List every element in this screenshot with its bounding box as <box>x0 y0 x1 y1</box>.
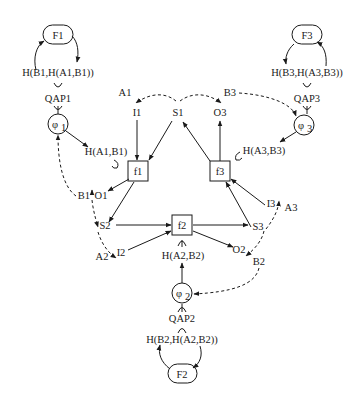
io-label-O2: O2 <box>233 244 246 255</box>
edge-S1-to-f1 <box>149 121 172 160</box>
edge-S3-to-O2-dashed <box>246 231 264 256</box>
edge-f3-to-S1 <box>183 122 210 161</box>
hash-label-HA2: H(A2,B2) <box>162 250 205 262</box>
edge-F3-to-HB3 <box>286 44 294 64</box>
phi-symbol-3: φ <box>298 120 304 131</box>
hash-label-HA3: H(A3,B3) <box>243 145 286 157</box>
io-label-O1: O1 <box>95 190 108 201</box>
edge-O1-to-S2-dashed <box>92 200 98 227</box>
box-f1-group: f1 <box>108 120 172 222</box>
edge-B1-to-phi1-dashed <box>58 135 76 196</box>
io-label-I3: I3 <box>267 198 276 209</box>
phi-symbol-2: φ <box>176 288 182 299</box>
qap-label-QAP2: QAP2 <box>169 313 195 324</box>
edge-phi3-to-HA3 <box>280 132 296 142</box>
phi-subscript-3: 3 <box>307 123 312 134</box>
edge-S1-to-I1-dashed <box>136 95 176 103</box>
cup-QAP1-phi1 <box>54 106 62 114</box>
phi-subscript-1: 1 <box>61 122 66 133</box>
key-label-A1: A1 <box>119 87 132 98</box>
f3-cluster: F3 H(B3,H(A3,B3)) QAP3 φ 3 H(A3,B3) <box>236 25 344 160</box>
key-label-A3: A3 <box>285 202 298 213</box>
box-f3-group: f3 <box>183 121 265 227</box>
key-label-A2: A2 <box>96 251 109 262</box>
edge-f2-to-O2 <box>193 231 233 247</box>
box-label-f1: f1 <box>134 166 143 177</box>
box-label-f3: f3 <box>216 166 225 177</box>
edge-F1-to-HB1 <box>72 36 78 62</box>
protocol-diagram: F1 H(B1,H(A1,B1)) QAP1 φ 1 H(A1,B1) F3 H… <box>0 0 362 403</box>
io-label-S1: S1 <box>172 107 183 118</box>
hash-label-HB2: H(B2,H(A2,B2)) <box>146 334 218 346</box>
box-label-f2: f2 <box>178 220 187 231</box>
edge-S3-to-f3 <box>226 182 251 227</box>
io-label-I2: I2 <box>117 247 126 258</box>
edge-B2-to-phi2-dashed <box>194 268 259 294</box>
hash-label-HB3: H(B3,H(A3,B3)) <box>271 67 343 79</box>
edge-HB2-to-F2 <box>193 346 201 368</box>
function-label-F2: F2 <box>176 369 187 380</box>
edge-I2-to-f2 <box>128 231 171 250</box>
edge-F2-to-HB2 <box>159 345 170 369</box>
key-label-B1: B1 <box>78 190 90 201</box>
f1-cluster: F1 H(B1,H(A1,B1)) QAP1 φ 1 H(A1,B1) <box>22 25 128 168</box>
cap-QAP2-phi2 <box>178 304 186 312</box>
cap-f2-HA2 <box>178 240 186 247</box>
f2-cluster: φ 2 QAP2 H(B2,H(A2,B2)) F2 <box>146 263 218 383</box>
edge-f1-to-O1 <box>108 179 129 191</box>
hook-HA1 <box>112 160 118 168</box>
qap-label-QAP1: QAP1 <box>45 93 71 104</box>
function-label-F1: F1 <box>52 30 63 41</box>
io-label-I1: I1 <box>133 107 142 118</box>
qap-label-QAP3: QAP3 <box>294 93 320 104</box>
edge-phi1-to-HA1 <box>66 131 88 147</box>
io-label-S2: S2 <box>99 220 110 231</box>
function-label-F3: F3 <box>301 30 312 41</box>
cup-HB3-QAP3 <box>303 83 311 87</box>
cup-HB1-QAP1 <box>54 83 62 87</box>
phi-subscript-2: 2 <box>185 291 190 302</box>
hook-HA3 <box>236 152 243 160</box>
edge-S1-to-O3-dashed <box>180 95 221 103</box>
io-label-O3: O3 <box>214 107 227 118</box>
key-label-B3: B3 <box>224 87 236 98</box>
edge-HB3-to-F3 <box>317 42 326 66</box>
edge-B3-to-phi3-dashed <box>239 93 296 116</box>
box-f2-group: f2 H(A2,B2) <box>116 215 248 262</box>
right-middle: S3 I3 A3 O2 B2 <box>194 198 297 294</box>
hash-label-HB1: H(B1,H(A1,B1)) <box>22 67 94 79</box>
hash-label-HA1: H(A1,B1) <box>85 146 128 158</box>
io-label-S3: S3 <box>252 221 263 232</box>
edge-HB1-to-F1 <box>35 41 44 70</box>
key-label-B2: B2 <box>253 256 265 267</box>
cap-HB2-QAP2 <box>178 329 186 334</box>
cup-QAP3-phi3 <box>303 106 311 114</box>
phi-symbol-1: φ <box>52 119 58 130</box>
upper-center: A1 B3 I1 S1 O3 <box>119 87 296 118</box>
